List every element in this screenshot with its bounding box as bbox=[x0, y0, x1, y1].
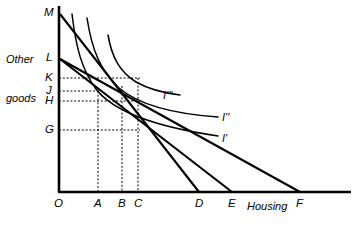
x-tick-label-A: A bbox=[94, 197, 102, 209]
budget-line-LE bbox=[60, 59, 232, 192]
indifference-curve-I-prime bbox=[72, 14, 218, 136]
curve-label-I-prime: I' bbox=[222, 132, 227, 144]
y-tick-label-K: K bbox=[45, 71, 53, 83]
curve-label-I-triple-prime: I''' bbox=[163, 89, 172, 101]
x-tick-label-E: E bbox=[228, 197, 236, 209]
x-tick-label-O: O bbox=[54, 197, 63, 209]
y-tick-label-H: H bbox=[45, 94, 53, 106]
budget-lines-group bbox=[60, 14, 300, 192]
y-tick-label-L: L bbox=[46, 51, 52, 63]
budget-line-LF bbox=[60, 59, 300, 192]
y-axis-label: Other goods bbox=[6, 27, 36, 131]
y-tick-label-G: G bbox=[45, 123, 54, 135]
x-axis-label: Housing bbox=[247, 200, 287, 212]
y-tick-label-M: M bbox=[44, 6, 54, 18]
x-tick-label-C: C bbox=[134, 197, 142, 209]
indifference-curve-figure: Other goods M L K J H G O A B C D E F Ho… bbox=[0, 0, 354, 233]
x-tick-label-B: B bbox=[118, 197, 126, 209]
indifference-curves-group bbox=[72, 14, 218, 136]
indifference-curve-I-double-prime bbox=[87, 18, 218, 117]
budget-line-MD bbox=[60, 14, 199, 192]
indifference-curve-I-triple-prime bbox=[108, 35, 180, 95]
y-axis-label-line1: Other bbox=[6, 53, 36, 66]
x-tick-label-D: D bbox=[195, 197, 203, 209]
x-tick-label-F: F bbox=[296, 197, 303, 209]
y-axis-label-line2: goods bbox=[6, 92, 36, 105]
axes-group bbox=[58, 6, 351, 192]
curve-label-I-double-prime: I'' bbox=[222, 111, 229, 123]
